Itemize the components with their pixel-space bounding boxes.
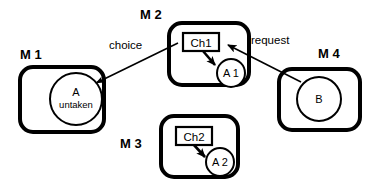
- edge-label-request: request: [251, 34, 290, 46]
- machine-m4[interactable]: B: [279, 69, 360, 130]
- state-label-a2: A 2: [212, 156, 228, 168]
- machine-m1[interactable]: A untaken: [20, 67, 104, 132]
- machine-m3[interactable]: Ch2 A 2: [161, 116, 238, 177]
- machine-m2[interactable]: Ch1 A 1: [169, 23, 249, 87]
- state-label-a1: A 1: [223, 67, 239, 79]
- channel-label-ch1: Ch1: [190, 37, 211, 49]
- machine-label-m4: M 4: [318, 46, 340, 61]
- state-label-b: B: [315, 93, 322, 105]
- diagram-svg: A untaken M 1 Ch1 A 1 M 2 Ch2 A 2 M 3: [0, 0, 375, 191]
- machine-label-m2: M 2: [140, 7, 162, 22]
- state-sublabel-a-untaken: untaken: [59, 99, 93, 110]
- diagram-canvas: A untaken M 1 Ch1 A 1 M 2 Ch2 A 2 M 3: [0, 0, 375, 191]
- machine-label-m3: M 3: [120, 136, 142, 151]
- edge-label-choice: choice: [109, 39, 142, 51]
- channel-label-ch2: Ch2: [183, 131, 204, 143]
- state-label-a: A: [72, 86, 80, 98]
- machine-label-m1: M 1: [20, 47, 42, 62]
